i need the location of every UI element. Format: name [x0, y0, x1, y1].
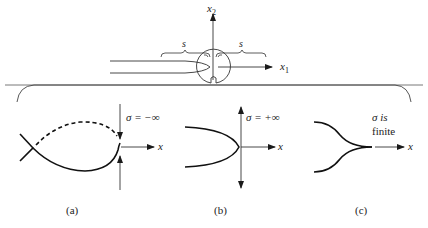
caption-b: (b) [214, 204, 227, 217]
x1-label: x1 [279, 60, 289, 75]
x-label-a: x [157, 140, 163, 152]
grouping-bracket [17, 85, 411, 102]
crack-profile-parabola [185, 127, 239, 167]
x2-label: x2 [206, 2, 216, 17]
crack [110, 61, 210, 73]
crack-profile-cusp-upper [314, 122, 372, 147]
caption-c: (c) [355, 204, 368, 217]
crack-profile-dashed [36, 122, 117, 145]
brace-left-label: s [182, 38, 186, 49]
sigma-label-c-line1: σ is [372, 111, 388, 123]
top-figure: x2 x1 s s [5, 2, 423, 85]
x-label-b: x [277, 140, 283, 152]
circle-hook-left [204, 55, 208, 57]
circle-notch [211, 77, 216, 84]
panel-b: x σ = +∞ (b) [185, 107, 283, 217]
crack-profile-tail [20, 134, 33, 148]
sigma-label-a: σ = −∞ [126, 111, 160, 123]
sigma-label-b: σ = +∞ [246, 111, 280, 123]
panel-c: x σ is finite (c) [314, 111, 413, 217]
circle-hook-right [218, 55, 222, 57]
sigma-label-c-line2: finite [372, 125, 395, 137]
brace-right [216, 50, 266, 57]
tip-circle [197, 49, 231, 83]
caption-a: (a) [66, 204, 79, 217]
panel-a: x σ = −∞ (a) [20, 104, 163, 217]
x-label-c: x [407, 140, 413, 152]
brace-right-label: s [239, 38, 243, 49]
crack-profile-solid [20, 143, 120, 171]
crack-profile-cusp-lower [314, 147, 372, 172]
crack-tip-diagram: x2 x1 s s x σ = −∞ [0, 0, 428, 228]
